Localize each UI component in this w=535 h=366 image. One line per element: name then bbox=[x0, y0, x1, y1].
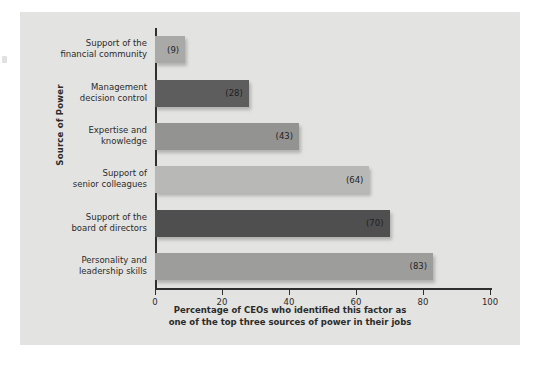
x-tick bbox=[222, 290, 223, 295]
category-label: Support of the financial community bbox=[17, 38, 147, 60]
category-label: Support of the board of directors bbox=[17, 212, 147, 234]
bar-row: (83) bbox=[155, 253, 490, 280]
plot-area: 020406080100 (9)(28)(43)(64)(70)(83) Sup… bbox=[155, 28, 490, 288]
bar-value-label: (43) bbox=[276, 131, 293, 141]
scan-artifact bbox=[2, 56, 7, 63]
bar-row: (64) bbox=[155, 166, 490, 193]
x-tick bbox=[490, 290, 491, 295]
bar: (70) bbox=[155, 210, 390, 237]
bar: (43) bbox=[155, 123, 299, 150]
category-axis-line bbox=[155, 28, 157, 288]
bar-row: (43) bbox=[155, 123, 490, 150]
bar-value-label: (70) bbox=[366, 218, 383, 228]
x-tick bbox=[423, 290, 424, 295]
bar-row: (28) bbox=[155, 80, 490, 107]
bar: (83) bbox=[155, 253, 433, 280]
bar-row: (70) bbox=[155, 210, 490, 237]
x-tick bbox=[356, 290, 357, 295]
bar-value-label: (9) bbox=[167, 45, 179, 55]
bar-value-label: (28) bbox=[225, 88, 242, 98]
bar: (9) bbox=[155, 36, 185, 63]
x-tick bbox=[289, 290, 290, 295]
bar: (64) bbox=[155, 166, 369, 193]
category-label: Expertise and knowledge bbox=[17, 125, 147, 147]
chart-panel: Source of Power 020406080100 (9)(28)(43)… bbox=[20, 12, 520, 345]
x-axis-caption: Percentage of CEOs who identified this f… bbox=[80, 304, 500, 328]
x-tick bbox=[155, 290, 156, 295]
bar-value-label: (83) bbox=[410, 261, 427, 271]
bar-row: (9) bbox=[155, 36, 490, 63]
category-label: Support of senior colleagues bbox=[17, 168, 147, 190]
category-label: Management decision control bbox=[17, 82, 147, 104]
bar: (28) bbox=[155, 80, 249, 107]
category-label: Personality and leadership skills bbox=[17, 255, 147, 277]
value-axis-line bbox=[155, 288, 492, 290]
bar-value-label: (64) bbox=[346, 175, 363, 185]
